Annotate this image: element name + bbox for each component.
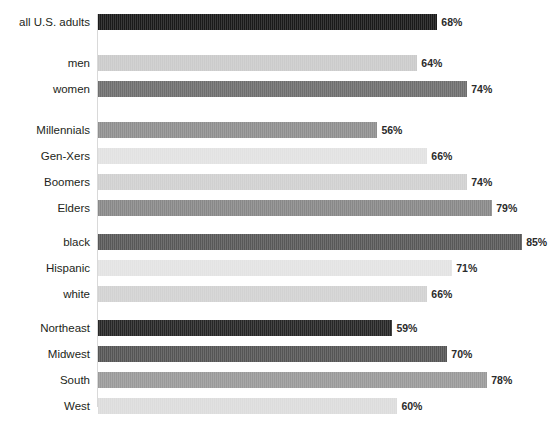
bar-value-label: 59% — [392, 320, 417, 336]
bar[interactable] — [98, 372, 487, 388]
bar-row: Northeast59% — [0, 320, 558, 336]
bar-row: Midwest70% — [0, 346, 558, 362]
bar-value-label: 78% — [487, 372, 512, 388]
bar-row: men64% — [0, 55, 558, 71]
bar-category-label: men — [0, 55, 90, 71]
bar[interactable] — [98, 14, 437, 30]
bar-value-label: 64% — [417, 55, 442, 71]
bar-row: West60% — [0, 398, 558, 414]
bar-value-label: 56% — [377, 122, 402, 138]
bar-row: Hispanic71% — [0, 260, 558, 276]
bar-value-label: 66% — [427, 286, 452, 302]
bar-row: white66% — [0, 286, 558, 302]
bar-category-label: black — [0, 234, 90, 250]
bar-value-label: 66% — [427, 148, 452, 164]
bar-row: Gen-Xers66% — [0, 148, 558, 164]
bar[interactable] — [98, 234, 522, 250]
bar[interactable] — [98, 320, 392, 336]
bar[interactable] — [98, 346, 447, 362]
bar-category-label: Boomers — [0, 174, 90, 190]
bar-value-label: 71% — [452, 260, 477, 276]
bar-category-label: Northeast — [0, 320, 90, 336]
bar-row: South78% — [0, 372, 558, 388]
bar-value-label: 85% — [522, 234, 547, 250]
bar-row: Boomers74% — [0, 174, 558, 190]
bar[interactable] — [98, 55, 417, 71]
plot-area: all U.S. adults68%men64%women74%Millenni… — [0, 14, 558, 414]
bar-row: black85% — [0, 234, 558, 250]
bar-category-label: all U.S. adults — [0, 14, 90, 30]
bar-category-label: Hispanic — [0, 260, 90, 276]
bar[interactable] — [98, 260, 452, 276]
bar-value-label: 79% — [492, 200, 517, 216]
bar[interactable] — [98, 122, 377, 138]
bar-row: all U.S. adults68% — [0, 14, 558, 30]
bar-value-label: 74% — [467, 174, 492, 190]
bar-value-label: 74% — [467, 81, 492, 97]
bar-category-label: white — [0, 286, 90, 302]
bar-row: Millennials56% — [0, 122, 558, 138]
bar-value-label: 60% — [397, 398, 422, 414]
bar[interactable] — [98, 398, 397, 414]
bar-chart: all U.S. adults68%men64%women74%Millenni… — [0, 0, 558, 421]
bar[interactable] — [98, 286, 427, 302]
bar-category-label: West — [0, 398, 90, 414]
bar-value-label: 68% — [437, 14, 462, 30]
bar[interactable] — [98, 174, 467, 190]
bar-category-label: Midwest — [0, 346, 90, 362]
bar-category-label: Millennials — [0, 122, 90, 138]
chart-title — [0, 0, 558, 3]
bar-value-label: 70% — [447, 346, 472, 362]
bar-category-label: South — [0, 372, 90, 388]
bar-category-label: Gen-Xers — [0, 148, 90, 164]
bar[interactable] — [98, 148, 427, 164]
bar-category-label: women — [0, 81, 90, 97]
bar-row: Elders79% — [0, 200, 558, 216]
bar-category-label: Elders — [0, 200, 90, 216]
bar-row: women74% — [0, 81, 558, 97]
bar[interactable] — [98, 200, 492, 216]
bar[interactable] — [98, 81, 467, 97]
